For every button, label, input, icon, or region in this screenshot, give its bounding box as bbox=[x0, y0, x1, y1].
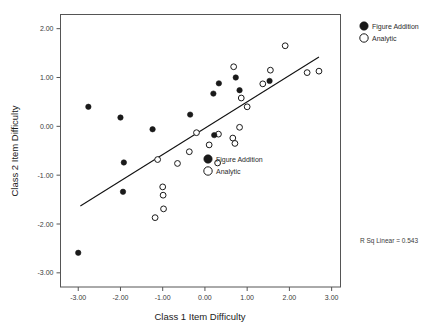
series-figure-addition-points bbox=[76, 75, 273, 256]
x-tick-label: -2.00 bbox=[112, 294, 128, 301]
data-point bbox=[267, 67, 273, 73]
data-point bbox=[161, 206, 167, 212]
data-point bbox=[216, 81, 221, 86]
data-point bbox=[260, 81, 266, 87]
x-axis-title: Class 1 Item Difficulty bbox=[154, 311, 245, 322]
legend-inner-marker-filled-circle-icon bbox=[204, 155, 212, 163]
legend-outer-label-figure-addition: Figure Addition bbox=[372, 23, 419, 31]
data-point bbox=[76, 250, 81, 255]
data-point bbox=[175, 161, 181, 167]
data-point bbox=[206, 142, 212, 148]
data-point bbox=[186, 149, 192, 155]
data-point bbox=[118, 115, 123, 120]
data-point bbox=[211, 91, 216, 96]
y-tick-label: 1.00 bbox=[40, 74, 54, 81]
x-tick-label: 0.00 bbox=[198, 294, 212, 301]
r-squared-annotation: R Sq Linear = 0.543 bbox=[360, 237, 418, 245]
y-axis-ticks bbox=[57, 29, 61, 273]
y-tick-label: -1.00 bbox=[38, 172, 54, 179]
x-tick-label: -3.00 bbox=[70, 294, 86, 301]
x-axis-ticks bbox=[78, 287, 331, 291]
legend-inner-label-figure-addition: Figure Addition bbox=[216, 156, 263, 164]
plot-canvas: 2.001.000.00-1.00-2.00-3.00 -3.00-2.00-1… bbox=[0, 0, 442, 334]
data-point bbox=[121, 160, 126, 165]
data-point bbox=[187, 112, 192, 117]
y-tick-label: 2.00 bbox=[40, 25, 54, 32]
scatter-plot-figure: 2.001.000.00-1.00-2.00-3.00 -3.00-2.00-1… bbox=[0, 0, 442, 334]
x-tick-label: 1.00 bbox=[240, 294, 254, 301]
plot-frame bbox=[61, 15, 341, 288]
y-axis-title: Class 2 Item Difficulty bbox=[9, 105, 20, 196]
data-point bbox=[244, 104, 250, 110]
data-point bbox=[86, 104, 91, 109]
legend-outer-marker-open-circle-icon bbox=[360, 34, 368, 42]
x-tick-label: 3.00 bbox=[325, 294, 339, 301]
x-axis-tick-labels: -3.00-2.00-1.000.001.002.003.00 bbox=[70, 294, 338, 301]
y-tick-label: 0.00 bbox=[40, 123, 54, 130]
data-point bbox=[120, 189, 125, 194]
legend-outer-marker-filled-circle-icon bbox=[360, 22, 368, 30]
data-point bbox=[237, 124, 243, 130]
data-point bbox=[150, 127, 155, 132]
data-point bbox=[232, 141, 238, 147]
data-point bbox=[152, 215, 158, 221]
y-axis-tick-labels: 2.001.000.00-1.00-2.00-3.00 bbox=[38, 25, 54, 276]
data-point bbox=[267, 78, 272, 83]
legend-inner-label-analytic: Analytic bbox=[216, 168, 241, 176]
data-point bbox=[238, 95, 244, 101]
data-point bbox=[237, 87, 242, 92]
legend-outer-label-analytic: Analytic bbox=[372, 35, 397, 43]
data-point bbox=[233, 75, 238, 80]
legend-inner: Figure Addition Analytic bbox=[204, 155, 263, 176]
series-analytic-points bbox=[152, 43, 322, 221]
data-point bbox=[160, 192, 166, 198]
data-point bbox=[231, 64, 237, 70]
data-point bbox=[160, 184, 166, 190]
y-tick-label: -2.00 bbox=[38, 221, 54, 228]
x-tick-label: -1.00 bbox=[155, 294, 171, 301]
y-tick-label: -3.00 bbox=[38, 269, 54, 276]
data-point bbox=[304, 70, 310, 76]
data-point bbox=[212, 132, 217, 137]
legend-outer: Figure Addition Analytic bbox=[360, 22, 419, 43]
legend-inner-marker-open-circle-icon bbox=[204, 167, 212, 175]
x-tick-label: 2.00 bbox=[283, 294, 297, 301]
data-point bbox=[155, 157, 161, 163]
data-point bbox=[316, 68, 322, 74]
data-point bbox=[282, 43, 288, 49]
data-point bbox=[194, 130, 200, 136]
